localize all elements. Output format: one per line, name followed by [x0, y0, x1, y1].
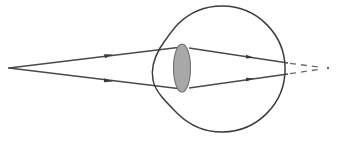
incoming-ray-lower: [9, 68, 182, 89]
refracted-rays: [189, 48, 288, 88]
refracted-ray-lower: [189, 74, 288, 88]
point-source: [8, 67, 10, 69]
arrow-right-icon: [104, 54, 113, 58]
virtual-focus-extensions: [290, 63, 329, 73]
virtual-extension-lower: [290, 69, 322, 74]
incoming-rays: [9, 47, 182, 89]
refracted-ray-upper: [189, 48, 288, 63]
eyeball-outline: [152, 6, 285, 132]
focal-point: [327, 67, 329, 69]
virtual-extension-upper: [290, 63, 322, 67]
lens: [174, 44, 191, 92]
hyperopia-ray-diagram: [0, 0, 356, 143]
